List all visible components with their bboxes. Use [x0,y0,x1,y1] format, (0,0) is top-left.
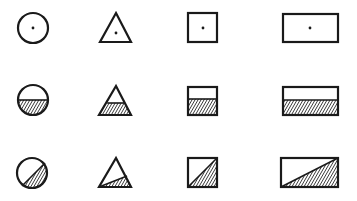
rectangle-dot-shape [283,14,338,42]
circle-half-hatched-shape [18,85,48,116]
shapes-diagram [0,0,357,201]
triangle-half-hatched-shape [99,86,131,115]
row-diagonal-hatch [17,158,338,190]
row-dot [18,13,338,43]
row-half-hatch [18,85,338,116]
square-dot-shape [188,13,217,42]
circle-dot-shape [18,13,48,43]
triangle-diagonal-hatched-shape [99,158,131,187]
triangle-dot-shape [100,13,131,42]
square-half-hatched-shape [188,87,217,115]
circle-diagonal-hatched-shape [17,158,52,190]
rectangle-half-hatched-shape [283,87,338,115]
rectangle-diagonal-hatched-shape [281,158,338,187]
square-diagonal-hatched-shape [188,158,217,187]
